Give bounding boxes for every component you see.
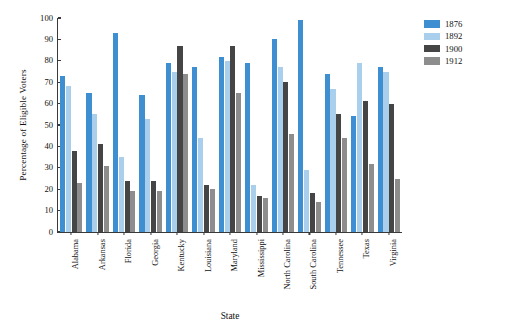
legend-item-1876[interactable]: 1876 [424,18,462,30]
legend-label: 1876 [445,19,462,29]
bar-georgia-1876[interactable] [139,95,144,232]
x-axis-tick-label: Arkansas [98,239,107,270]
x-axis-tick-label: Florida [124,239,133,263]
bar-kentucky-1900[interactable] [177,46,182,232]
bar-virginia-1876[interactable] [378,67,383,232]
x-axis-tick-mark [230,232,231,235]
bar-florida-1892[interactable] [119,157,124,232]
bar-south-carolina-1900[interactable] [310,193,315,232]
x-axis-title: State [0,311,460,321]
y-axis-tick-label: 80 [44,55,53,65]
bar-group: Louisiana [190,18,216,232]
bar-virginia-1892[interactable] [383,72,388,233]
x-axis-tick-label: Virginia [389,239,398,266]
x-axis-tick-label: South Carolina [309,239,318,289]
bar-kentucky-1876[interactable] [166,63,171,232]
y-axis-tick-label: 0 [49,227,53,237]
bar-north-carolina-1876[interactable] [272,39,277,232]
bar-maryland-1892[interactable] [225,61,230,232]
bar-north-carolina-1900[interactable] [283,82,288,232]
bar-mississippi-1900[interactable] [257,196,262,232]
bar-south-carolina-1892[interactable] [304,170,309,232]
bar-tennessee-1900[interactable] [336,114,341,232]
bar-mississippi-1876[interactable] [245,63,250,232]
y-axis-tick-label: 100 [40,13,53,23]
bar-south-carolina-1912[interactable] [316,202,321,232]
bar-georgia-1892[interactable] [145,119,150,232]
bar-arkansas-1892[interactable] [92,114,97,232]
bar-tennessee-1876[interactable] [325,74,330,232]
bar-texas-1912[interactable] [369,164,374,232]
x-axis-tick-mark [256,232,257,235]
bar-alabama-1912[interactable] [77,183,82,232]
bar-tennessee-1912[interactable] [342,138,347,232]
bar-maryland-1900[interactable] [230,46,235,232]
y-axis-tick-label: 60 [44,98,53,108]
legend-swatch-icon [424,45,440,52]
bar-louisiana-1912[interactable] [210,189,215,232]
bar-kentucky-1892[interactable] [172,72,177,233]
x-axis-tick-label: Georgia [151,239,160,266]
x-axis-tick-mark [335,232,336,235]
x-axis-tick-mark [124,232,125,235]
bar-florida-1900[interactable] [125,181,130,232]
bar-alabama-1900[interactable] [72,151,77,232]
bar-group: Alabama [58,18,84,232]
bar-arkansas-1912[interactable] [104,166,109,232]
bar-florida-1876[interactable] [113,33,118,232]
legend-item-1900[interactable]: 1900 [424,43,462,55]
bar-georgia-1900[interactable] [151,181,156,232]
bar-alabama-1876[interactable] [60,76,65,232]
legend-label: 1900 [445,44,462,54]
bar-kentucky-1912[interactable] [183,74,188,232]
x-axis-tick-mark [203,232,204,235]
x-axis-tick-label: Texas [362,239,371,258]
y-axis-tick-label: 90 [44,34,53,44]
bar-louisiana-1892[interactable] [198,138,203,232]
bar-group: Arkansas [84,18,110,232]
y-axis-title: Percentage of Eligible Voters [18,30,28,220]
x-axis-tick-label: Louisiana [204,239,213,272]
bar-alabama-1892[interactable] [66,86,71,232]
x-axis-tick-mark [71,232,72,235]
x-axis-tick-mark [282,232,283,235]
bar-louisiana-1876[interactable] [192,67,197,232]
plot-area: 0102030405060708090100 AlabamaArkansasFl… [57,18,402,233]
bar-north-carolina-1912[interactable] [289,134,294,232]
legend-swatch-icon [424,57,440,64]
bar-louisiana-1900[interactable] [204,185,209,232]
x-axis-tick-mark [388,232,389,235]
y-axis-tick-label: 20 [44,184,53,194]
bar-north-carolina-1892[interactable] [278,67,283,232]
x-axis-tick-label: Tennessee [336,239,345,273]
x-axis-tick-label: Maryland [230,239,239,272]
y-axis-tick-label: 70 [44,77,53,87]
bar-texas-1892[interactable] [357,63,362,232]
bar-group: South Carolina [296,18,322,232]
bar-georgia-1912[interactable] [157,191,162,232]
legend-item-1912[interactable]: 1912 [424,55,462,67]
x-axis-tick-label: Kentucky [177,239,186,272]
bar-virginia-1912[interactable] [395,179,400,233]
bar-texas-1900[interactable] [363,101,368,232]
legend-item-1892[interactable]: 1892 [424,30,462,42]
x-axis-tick-label: Mississippi [257,239,266,277]
bar-group: Texas [349,18,375,232]
bar-mississippi-1912[interactable] [263,198,268,232]
bar-maryland-1912[interactable] [236,93,241,232]
bar-virginia-1900[interactable] [389,104,394,232]
bar-texas-1876[interactable] [351,116,356,232]
bar-arkansas-1876[interactable] [86,93,91,232]
bar-group: Virginia [376,18,402,232]
bar-tennessee-1892[interactable] [330,89,335,232]
bar-arkansas-1900[interactable] [98,144,103,232]
bar-group: Georgia [137,18,163,232]
bar-florida-1912[interactable] [130,191,135,232]
bar-chart: Percentage of Eligible Voters 0102030405… [0,0,517,330]
x-axis-tick-mark [177,232,178,235]
bar-mississippi-1892[interactable] [251,185,256,232]
bar-maryland-1876[interactable] [219,57,224,232]
y-axis-tick-label: 50 [44,120,53,130]
bar-south-carolina-1876[interactable] [298,20,303,232]
legend-swatch-icon [424,33,440,40]
